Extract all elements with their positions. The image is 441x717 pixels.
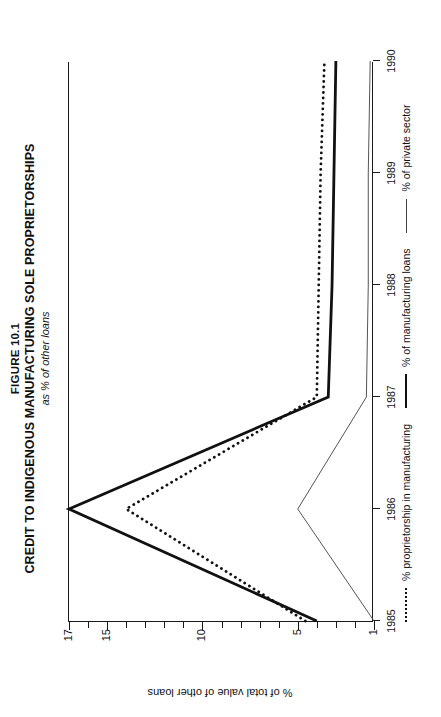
legend-item-private-sector: % of private sector <box>400 105 412 233</box>
y-tick-label: 17 <box>63 629 74 655</box>
y-tick-label: 5 <box>292 629 303 655</box>
solid-thin-line-icon <box>406 199 407 233</box>
x-tick-label: 1989 <box>385 150 397 196</box>
x-tick <box>373 284 380 285</box>
y-tick <box>279 621 280 628</box>
figure-page: FIGURE 10.1 CREDIT TO INDIGENOUS MANUFAC… <box>0 0 441 717</box>
y-tick <box>355 621 356 628</box>
x-tick <box>373 60 380 61</box>
figure-title: CREDIT TO INDIGENOUS MANUFACTURING SOLE … <box>22 0 38 717</box>
y-tick <box>126 621 127 628</box>
figure-header: FIGURE 10.1 CREDIT TO INDIGENOUS MANUFAC… <box>8 0 53 717</box>
legend-label-proprietorship: % proprietorship in manufacturing <box>400 424 412 581</box>
x-tick-label: 1985 <box>385 598 397 644</box>
y-tick <box>183 621 184 628</box>
x-tick <box>373 508 380 509</box>
y-tick <box>241 621 242 628</box>
y-tick <box>260 621 261 628</box>
x-tick-label: 1987 <box>385 374 397 420</box>
x-tick <box>373 172 380 173</box>
figure-subtitle: as % of other loans <box>38 0 53 717</box>
legend-label-manufacturing-loans: % of manufacturing loans <box>400 249 412 367</box>
x-tick-label: 1986 <box>385 486 397 532</box>
y-tick <box>222 621 223 628</box>
figure-number: FIGURE 10.1 <box>8 0 22 717</box>
y-tick-label: 15 <box>101 629 112 655</box>
y-tick <box>88 621 89 628</box>
y-axis-title: % of total value of other loans <box>105 686 335 700</box>
x-tick <box>373 396 380 397</box>
legend: % proprietorship in manufacturing % of m… <box>400 42 412 622</box>
plot-area: % of total value of other loans 15101517… <box>68 62 373 622</box>
dotted-line-icon <box>405 588 407 622</box>
y-tick-label: 1 <box>368 629 379 655</box>
y-tick <box>145 621 146 628</box>
x-tick-label: 1988 <box>385 262 397 308</box>
line-proprietorship <box>126 61 324 621</box>
y-tick-label: 10 <box>196 629 207 655</box>
legend-item-manufacturing-loans: % of manufacturing loans <box>400 249 412 408</box>
series-lines <box>69 61 374 621</box>
rotated-figure-canvas: FIGURE 10.1 CREDIT TO INDIGENOUS MANUFAC… <box>0 0 441 717</box>
y-tick <box>317 621 318 628</box>
legend-item-proprietorship: % proprietorship in manufacturing <box>400 424 412 622</box>
solid-thick-line-icon <box>405 374 407 408</box>
y-tick <box>336 621 337 628</box>
line-manufacturing-loans <box>69 61 336 621</box>
y-tick <box>164 621 165 628</box>
legend-label-private-sector: % of private sector <box>400 105 412 192</box>
x-tick-label: 1990 <box>385 38 397 84</box>
line-private-sector <box>298 61 374 621</box>
